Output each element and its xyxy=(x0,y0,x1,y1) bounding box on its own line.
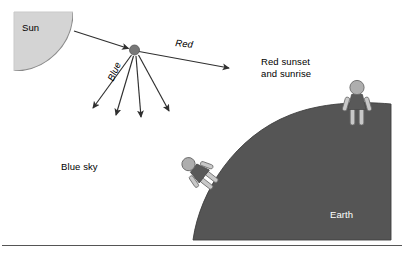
torso xyxy=(348,95,366,110)
red-ray-label: Red xyxy=(175,37,194,51)
blue-ray-3 xyxy=(136,56,141,117)
blue-scattered-rays xyxy=(93,55,169,117)
blue-ray-4 xyxy=(139,55,170,111)
sun-shape xyxy=(0,0,73,71)
sun-label: Sun xyxy=(22,22,39,34)
blue-sky-label: Blue sky xyxy=(61,161,98,173)
red-ray xyxy=(139,52,229,69)
leg-left xyxy=(350,108,355,125)
red-sunset-label: Red sunsetand sunrise xyxy=(261,56,311,80)
red-sunset-line-2: and sunrise xyxy=(261,68,311,79)
red-sunset-line-1: Red sunset xyxy=(261,56,310,67)
incoming-sunlight-ray xyxy=(74,31,129,49)
head xyxy=(350,80,364,94)
diagram-canvas: Sun Red Blue Blue sky Red sunsetand sunr… xyxy=(0,0,404,259)
scattering-particle-dot xyxy=(130,45,140,55)
leg-right xyxy=(359,108,364,125)
earth-label: Earth xyxy=(330,209,353,221)
